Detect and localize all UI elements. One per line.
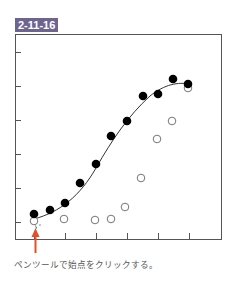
data-point <box>46 206 55 215</box>
data-point <box>107 132 116 141</box>
chart <box>0 0 237 284</box>
data-point <box>169 75 178 84</box>
data-point <box>153 135 161 143</box>
data-point <box>91 216 99 224</box>
data-point <box>30 217 38 225</box>
x-axis-ticks <box>35 233 190 240</box>
data-point <box>137 174 145 182</box>
data-point <box>61 199 70 208</box>
open-series <box>30 84 192 225</box>
data-point <box>60 215 68 223</box>
data-point <box>154 90 163 99</box>
data-point <box>92 160 101 169</box>
data-point <box>121 203 129 211</box>
data-point <box>184 80 193 89</box>
arrow-up-icon <box>32 228 40 253</box>
data-point <box>123 117 132 126</box>
data-point <box>30 210 39 219</box>
fit-curve <box>34 83 190 219</box>
data-point <box>107 215 115 223</box>
filled-series <box>30 75 193 219</box>
figure-caption: ペンツールで始点をクリックする。 <box>14 258 158 270</box>
y-axis-ticks <box>16 53 22 223</box>
data-point <box>139 92 148 101</box>
data-point <box>76 179 85 188</box>
data-point <box>168 117 176 125</box>
